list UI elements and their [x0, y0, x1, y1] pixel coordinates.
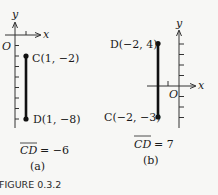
panel-a-origin-label: O	[2, 40, 11, 53]
panel-b-y-axis-label: y	[175, 17, 183, 30]
panel-a-point-c	[23, 53, 28, 58]
panel-b-x-axis-label: x	[198, 79, 205, 92]
panel-a-y-axis-label: y	[11, 8, 19, 21]
figure-caption: FIGURE 0.3.2	[0, 179, 61, 190]
panel-b-point-c-label: C(−2, −3)	[104, 111, 160, 124]
panel-a-point-c-label: C(1, −2)	[32, 52, 79, 65]
panel-a-point-d	[23, 116, 28, 121]
panel-a-distance-rhs: = −6	[40, 144, 69, 157]
panel-a-distance-lhs: CD	[20, 144, 37, 157]
panel-b-distance-lhs: CD	[134, 138, 151, 151]
panel-a-y-ticks	[15, 46, 19, 120]
panel-b-label: (b)	[143, 154, 159, 167]
panel-a-point-d-label: D(1, −8)	[33, 113, 81, 126]
panel-a-x-axis-label: x	[43, 28, 50, 41]
panel-b-y-ticks	[179, 44, 184, 118]
panel-a: y x O C(1, −2) D(1, −8) CD = −6 (a)	[2, 8, 81, 173]
figure-canvas: y x O C(1, −2) D(1, −8) CD = −6 (a) y x …	[0, 0, 218, 195]
panel-b-distance-rhs: = 7	[154, 138, 174, 151]
panel-b-point-d-label: D(−2, 4)	[110, 38, 158, 51]
panel-b-origin-label: O	[169, 88, 178, 101]
panel-b: y x O D(−2, 4) C(−2, −3) CD = 7 (b)	[104, 17, 205, 167]
panel-a-label: (a)	[30, 160, 45, 173]
